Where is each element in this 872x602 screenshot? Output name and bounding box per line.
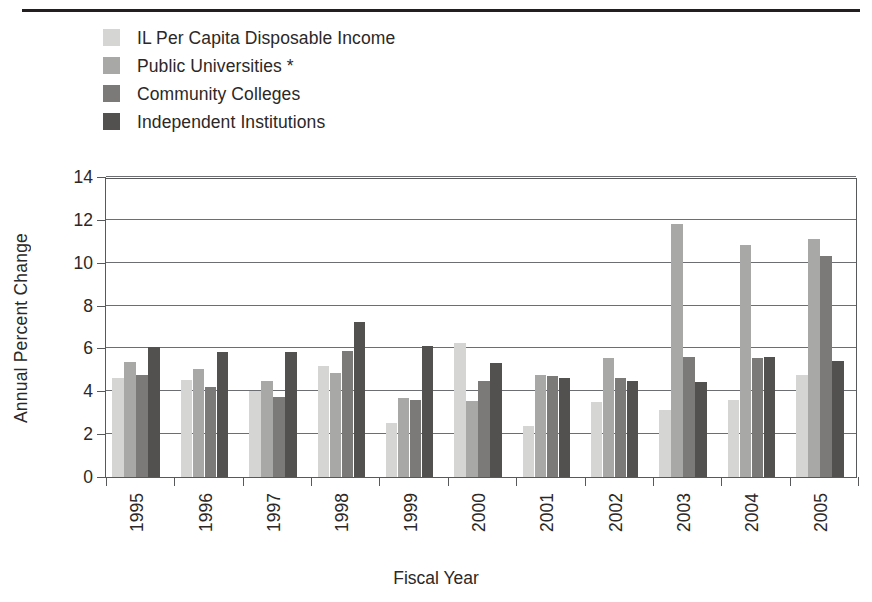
bar <box>695 382 707 477</box>
bar <box>796 375 808 477</box>
bar-group <box>386 179 434 477</box>
bar <box>193 369 205 477</box>
bar <box>330 373 342 477</box>
bar-group <box>318 179 366 477</box>
y-tick-label: 14 <box>74 167 93 188</box>
y-tick-label: 4 <box>83 381 93 402</box>
bar <box>547 376 559 477</box>
x-axis-title: Fiscal Year <box>0 568 872 589</box>
x-tick-mark <box>516 477 517 486</box>
x-tick-label: 1997 <box>264 493 285 532</box>
bar-group <box>454 179 502 477</box>
y-axis-title-text: Annual Percent Change <box>11 233 32 423</box>
x-tick-label: 2005 <box>811 493 832 532</box>
legend-item: IL Per Capita Disposable Income <box>103 25 523 50</box>
bar-group <box>591 179 639 477</box>
x-tick-label: 2001 <box>537 493 558 532</box>
x-tick-mark <box>379 477 380 486</box>
y-tick-mark <box>97 263 106 264</box>
x-tick-label: 2003 <box>674 493 695 532</box>
x-tick-mark <box>448 477 449 486</box>
bar <box>217 352 229 477</box>
legend-swatch-icon <box>103 57 120 74</box>
y-tick-label: 6 <box>83 338 93 359</box>
bar <box>148 347 160 477</box>
bar-group <box>796 179 844 477</box>
y-tick-label: 0 <box>83 467 93 488</box>
legend-item: Independent Institutions <box>103 109 523 134</box>
bar <box>752 358 764 477</box>
x-tick-mark <box>721 477 722 486</box>
y-tick-mark <box>97 391 106 392</box>
bar <box>124 362 136 477</box>
legend-swatch-icon <box>103 113 120 130</box>
bar <box>112 378 124 477</box>
bar <box>603 358 615 477</box>
x-tick-label: 1995 <box>127 493 148 532</box>
bar <box>832 361 844 477</box>
bar <box>386 423 398 477</box>
bar <box>490 363 502 477</box>
bar-group <box>659 179 707 477</box>
y-tick-mark <box>97 177 106 178</box>
bar <box>249 391 261 477</box>
bar-group <box>112 179 160 477</box>
bar <box>627 381 639 477</box>
bar <box>398 398 410 477</box>
x-tick-label: 1999 <box>401 493 422 532</box>
y-tick-label: 10 <box>74 252 93 273</box>
x-tick-mark <box>653 477 654 486</box>
bar <box>820 256 832 477</box>
bar <box>559 378 571 477</box>
x-tick-mark <box>106 477 107 486</box>
chart-figure: IL Per Capita Disposable IncomePublic Un… <box>0 0 872 602</box>
bar <box>261 381 273 477</box>
bar <box>318 366 330 477</box>
x-tick-label: 2002 <box>606 493 627 532</box>
bar <box>671 224 683 477</box>
bar-group <box>181 179 229 477</box>
x-tick-label: 1996 <box>196 493 217 532</box>
legend-item-label: Public Universities * <box>137 56 294 76</box>
x-tick-label: 2000 <box>469 493 490 532</box>
y-tick-label: 8 <box>83 295 93 316</box>
bar-group <box>523 179 571 477</box>
legend-item-label: Community Colleges <box>137 84 300 104</box>
legend-item-label: Independent Institutions <box>137 112 325 132</box>
x-tick-label: 1998 <box>332 493 353 532</box>
bar <box>422 346 434 477</box>
bar <box>808 239 820 477</box>
bar <box>740 245 752 478</box>
bar <box>478 381 490 477</box>
legend-item: Community Colleges <box>103 81 523 106</box>
legend-swatch-icon <box>103 29 120 46</box>
x-tick-label: 2004 <box>742 493 763 532</box>
bar <box>273 397 285 477</box>
top-divider-rule <box>22 9 860 12</box>
bar <box>659 410 671 478</box>
y-tick-mark <box>97 434 106 435</box>
bar <box>342 351 354 477</box>
x-tick-mark <box>585 477 586 486</box>
plot-area: 02468101214 1995199619971998199920002001… <box>105 178 857 478</box>
chart-legend: IL Per Capita Disposable IncomePublic Un… <box>103 25 523 137</box>
x-tick-mark <box>243 477 244 486</box>
y-tick-mark <box>97 220 106 221</box>
bar <box>466 401 478 477</box>
bar <box>181 380 193 478</box>
legend-item-label: IL Per Capita Disposable Income <box>137 28 395 48</box>
bar <box>764 357 776 477</box>
y-tick-label: 2 <box>83 424 93 445</box>
bar <box>683 357 695 477</box>
bar <box>410 400 422 477</box>
legend-item: Public Universities * <box>103 53 523 78</box>
y-tick-mark <box>97 348 106 349</box>
bar <box>285 352 297 477</box>
y-tick-mark <box>97 306 106 307</box>
bar <box>615 378 627 477</box>
y-tick-label: 12 <box>74 209 93 230</box>
bar <box>454 343 466 477</box>
x-tick-mark <box>858 477 859 486</box>
bar <box>136 375 148 477</box>
bar <box>535 375 547 477</box>
